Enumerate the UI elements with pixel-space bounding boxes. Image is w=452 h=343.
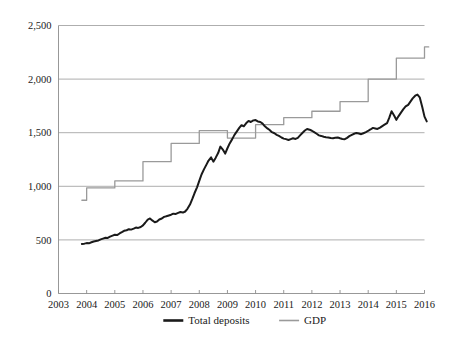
y-tick-label-1000: 1,000 — [28, 181, 52, 192]
x-tick-label-2008: 2008 — [189, 299, 210, 310]
y-tick-label-1500: 1,500 — [28, 127, 52, 138]
x-tick-label-2004: 2004 — [76, 299, 98, 310]
legend-label: GDP — [304, 314, 326, 326]
chart-figure: 05001,0001,5002,0002,500 200320042005200… — [0, 0, 452, 343]
line-chart: 05001,0001,5002,0002,500 200320042005200… — [0, 0, 452, 343]
legend-label: Total deposits — [188, 314, 249, 326]
y-tick-label-0: 0 — [46, 288, 51, 299]
x-tick-label-2005: 2005 — [104, 299, 125, 310]
chart-background — [0, 0, 452, 343]
x-tick-label-2015: 2015 — [386, 299, 407, 310]
x-tick-label-2012: 2012 — [301, 299, 322, 310]
x-tick-label-2016: 2016 — [414, 299, 435, 310]
y-tick-label-500: 500 — [36, 235, 52, 246]
x-tick-label-2014: 2014 — [358, 299, 380, 310]
x-tick-label-2003: 2003 — [48, 299, 69, 310]
x-tick-label-2011: 2011 — [273, 299, 294, 310]
x-tick-label-2010: 2010 — [245, 299, 266, 310]
x-tick-label-2006: 2006 — [132, 299, 153, 310]
x-tick-label-2007: 2007 — [161, 299, 182, 310]
x-tick-label-2009: 2009 — [217, 299, 238, 310]
y-tick-label-2000: 2,000 — [28, 74, 52, 85]
y-tick-label-2500: 2,500 — [28, 20, 52, 31]
x-tick-label-2013: 2013 — [330, 299, 351, 310]
